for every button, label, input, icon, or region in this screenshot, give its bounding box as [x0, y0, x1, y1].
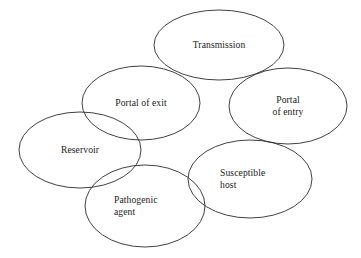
node-ellipse-pathogenic-agent — [85, 165, 205, 247]
node-ellipse-transmission — [154, 10, 284, 80]
diagram-canvas — [0, 0, 361, 258]
ellipse-layer — [19, 10, 347, 247]
node-ellipse-portal-of-entry — [229, 68, 347, 144]
node-ellipse-susceptible-host — [188, 140, 312, 218]
chain-of-infection-diagram: TransmissionPortal of exitPortal of entr… — [0, 0, 361, 258]
